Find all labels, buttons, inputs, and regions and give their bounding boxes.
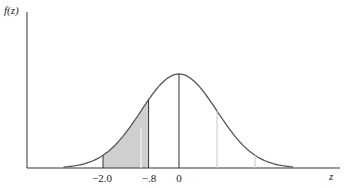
tick-label-neg-2: −2.0: [92, 172, 112, 184]
tick-label-zero: 0: [176, 172, 182, 184]
x-axis-label: z: [329, 170, 333, 182]
y-axis-label: f(z): [4, 4, 19, 16]
normal-curve-diagram: [0, 0, 360, 188]
density-curve: [64, 74, 294, 167]
tick-label-neg-0-8: −.8: [142, 172, 156, 184]
